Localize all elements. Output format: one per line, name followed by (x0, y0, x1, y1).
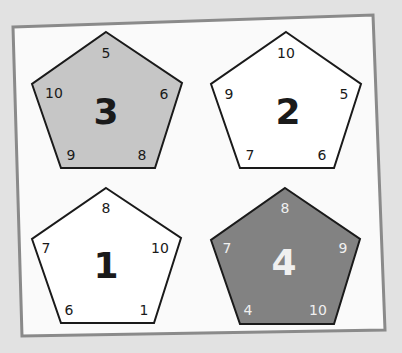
pentagon-3-vertex-bottom-left: 9 (67, 147, 76, 163)
pentagon-3-vertex-top: 5 (102, 45, 111, 61)
pentagon-4-vertex-bottom-right: 10 (309, 302, 327, 318)
pentagon-1-vertex-right: 10 (151, 240, 169, 256)
pentagon-1-vertex-top: 8 (102, 200, 111, 216)
pentagon-3-vertex-left: 10 (45, 85, 63, 101)
pentagon-3-label: 3 (93, 91, 118, 132)
pentagon-4-vertex-top: 8 (281, 200, 290, 216)
pentagon-1-vertex-left: 7 (42, 240, 51, 256)
pentagon-2-vertex-left: 9 (225, 86, 234, 102)
pentagon-4-label: 4 (271, 242, 296, 283)
pentagon-4-vertex-right: 9 (339, 240, 348, 256)
pentagon-2-vertex-top: 10 (277, 45, 295, 61)
pentagon-1-vertex-bottom-right: 1 (140, 302, 149, 318)
pentagon-4-vertex-bottom-left: 4 (244, 302, 253, 318)
pentagon-3-vertex-bottom-right: 8 (138, 147, 147, 163)
pentagon-3-vertex-right: 6 (160, 86, 169, 102)
pentagon-4-vertex-left: 7 (223, 240, 232, 256)
pentagon-1-vertex-bottom-left: 6 (65, 302, 74, 318)
pentagon-1-label: 1 (93, 245, 118, 286)
pentagon-2-vertex-bottom-left: 7 (246, 147, 255, 163)
pentagon-2-vertex-right: 5 (340, 86, 349, 102)
pentagon-2-vertex-bottom-right: 6 (318, 147, 327, 163)
pentagon-2-label: 2 (275, 91, 300, 132)
pentagon-puzzle-diagram: 3 5 6 8 9 10 2 10 5 6 7 9 1 8 10 1 6 7 4… (0, 0, 402, 353)
